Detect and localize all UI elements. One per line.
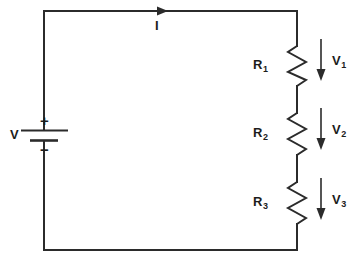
voltage-arrow-down-icon-2 — [317, 138, 326, 150]
resistor-label-r3-text: R — [253, 194, 262, 209]
source-label: V — [10, 128, 19, 141]
voltage-label-v2: V2 — [332, 123, 346, 136]
resistor-label-r2-text: R — [253, 125, 262, 140]
voltage-label-v1: V1 — [332, 54, 346, 67]
voltage-label-v2-text: V — [332, 122, 341, 137]
voltage-label-v2-sub: 2 — [341, 129, 346, 139]
voltage-label-v1-text: V — [332, 53, 341, 68]
resistor-r3-symbol — [288, 182, 306, 224]
resistor-label-r2: R2 — [253, 126, 267, 139]
circuit-diagram: V + − I R1 R2 R3 V1 V2 V3 — [0, 0, 359, 271]
resistor-label-r1: R1 — [253, 58, 267, 71]
battery-plus-sign: + — [40, 113, 49, 128]
voltage-label-v1-sub: 1 — [341, 60, 346, 70]
resistor-label-r1-text: R — [253, 57, 262, 72]
resistor-r1-symbol — [288, 46, 306, 86]
resistor-label-r3-sub: 3 — [263, 201, 268, 211]
resistor-label-r2-sub: 2 — [263, 132, 268, 142]
resistor-r2-symbol — [288, 113, 306, 155]
voltage-arrow-down-icon-1 — [317, 69, 326, 81]
voltage-label-v3-sub: 3 — [341, 199, 346, 209]
voltage-label-v3-text: V — [332, 192, 341, 207]
voltage-arrow-down-icon-3 — [317, 208, 326, 220]
current-arrow-icon — [157, 7, 168, 16]
battery-minus-sign: − — [40, 142, 49, 157]
resistor-label-r1-sub: 1 — [263, 64, 268, 74]
circuit-svg — [0, 0, 359, 271]
current-label: I — [155, 19, 159, 32]
voltage-label-v3: V3 — [332, 193, 346, 206]
resistor-label-r3: R3 — [253, 195, 267, 208]
